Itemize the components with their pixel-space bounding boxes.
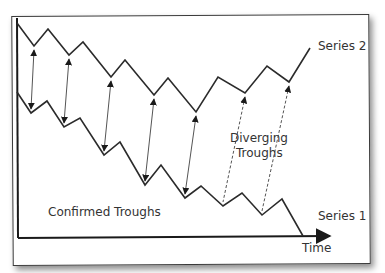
confirmed-trough-arrow <box>185 116 196 194</box>
diverging-troughs-label-1: Diverging <box>230 131 288 145</box>
y-axis <box>17 18 18 238</box>
confirmed-trough-arrow <box>104 81 111 151</box>
confirmed-trough-arrow <box>31 50 34 109</box>
trough-divergence-chart: Series 2 Series 1 Time Confirmed Troughs… <box>0 0 385 273</box>
diverging-troughs-label-2: Troughs <box>235 146 283 160</box>
x-axis <box>18 236 330 238</box>
confirmed-trough-arrow <box>64 59 69 123</box>
series-2-label: Series 2 <box>318 39 366 53</box>
series-line-series-2 <box>17 23 310 112</box>
confirmed-troughs-label: Confirmed Troughs <box>48 205 161 219</box>
confirmed-trough-arrow <box>145 99 154 181</box>
x-axis-label: Time <box>301 241 331 255</box>
series-1-label: Series 1 <box>318 209 366 223</box>
